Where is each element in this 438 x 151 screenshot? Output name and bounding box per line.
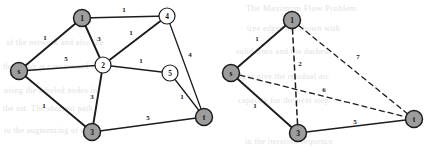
right-graph-edge-weights: 115267 (253, 35, 360, 126)
node-label-s: s (230, 69, 233, 78)
edge-weight-n5-t: 1 (180, 93, 184, 101)
edge-weight-s-n2: 5 (64, 55, 68, 63)
edge-weight-n1-n4: 1 (122, 6, 126, 14)
edge-weight-n3-t: 5 (353, 118, 357, 126)
node-label-3: 3 (90, 128, 94, 137)
node-label-1: 1 (290, 16, 294, 25)
edge-s-n3 (231, 73, 298, 133)
node-label-3: 3 (296, 129, 300, 138)
edge-weight-n1-t: 7 (356, 53, 360, 61)
edge-s-n2 (19, 65, 103, 71)
edge-weight-n2-n3: 3 (90, 93, 94, 101)
edge-weight-s-t: 6 (322, 86, 326, 94)
node-label-5: 5 (168, 69, 172, 78)
edge-n1-n3 (292, 20, 298, 133)
edge-weight-s-n1: 1 (43, 34, 47, 42)
edge-weight-n2-n4: 1 (129, 29, 133, 37)
edge-weight-n1-n2: 3 (97, 35, 101, 43)
left-graph-nodes: s12345t (11, 8, 213, 141)
node-label-s: s (18, 67, 21, 76)
edge-weight-n2-n5: 1 (139, 57, 143, 65)
edge-s-n3 (19, 71, 92, 132)
edge-n2-n5 (103, 65, 170, 73)
edge-weight-s-n3: 1 (42, 102, 46, 110)
node-label-1: 1 (80, 14, 84, 23)
node-label-4: 4 (165, 12, 169, 21)
edge-n1-n4 (82, 16, 167, 18)
edge-weight-s-n3: 1 (253, 102, 257, 110)
edge-weight-n4-t: 4 (188, 51, 192, 59)
node-label-2: 2 (101, 61, 105, 70)
graph-canvas: s12345t s13t 15131131415 115267 (0, 0, 438, 151)
edge-n2-n4 (103, 16, 167, 65)
figure-root: The Maximum Flow Problem of the network … (0, 0, 438, 151)
edge-weight-n1-n3: 2 (298, 60, 302, 68)
edge-weight-s-n1: 1 (255, 35, 259, 43)
edge-s-n1 (231, 20, 292, 73)
edge-s-n1 (19, 18, 82, 71)
edge-weight-n3-t: 5 (146, 114, 150, 122)
